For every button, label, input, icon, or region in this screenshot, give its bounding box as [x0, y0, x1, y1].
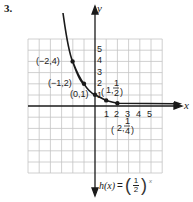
x-axis-label: x — [183, 99, 189, 111]
svg-text:1: 1 — [114, 78, 119, 88]
svg-text:5: 5 — [147, 109, 152, 119]
svg-text:2: 2 — [114, 109, 119, 119]
svg-text:1: 1 — [104, 109, 109, 119]
point-label: (0,1) — [70, 89, 89, 99]
equals-sign: = — [117, 180, 123, 191]
svg-text:4: 4 — [97, 55, 102, 65]
svg-text:1: 1 — [125, 116, 130, 126]
svg-text:): ) — [131, 125, 134, 135]
svg-text:): ) — [120, 87, 123, 97]
point-label: (−1,2) — [48, 78, 72, 88]
svg-text:2: 2 — [114, 88, 119, 98]
function-name: h(x) — [99, 180, 115, 191]
fraction-numerator: 1 — [134, 177, 138, 185]
y-axis — [92, 6, 98, 196]
function-formula: h(x) = ( 1 2 ) x — [99, 176, 152, 194]
close-paren: ) — [141, 176, 147, 194]
graph: y x 1 2 3 4 5 1 2 3 4 5 (−2,4) (−1,2) (0… — [0, 0, 193, 202]
svg-text:4: 4 — [136, 109, 141, 119]
base-fraction: 1 2 — [133, 177, 139, 194]
svg-text:4: 4 — [125, 126, 130, 136]
point-label-fraction: ( 2, 1 4 ) — [111, 116, 134, 136]
svg-text:(: ( — [101, 87, 104, 97]
svg-text:5: 5 — [97, 44, 102, 54]
exponent: x — [149, 178, 152, 184]
svg-text:(: ( — [111, 125, 114, 135]
point-label: (−2,4) — [36, 56, 60, 66]
fraction-denominator: 2 — [134, 186, 138, 194]
open-paren: ( — [125, 176, 131, 194]
svg-text:2,: 2, — [117, 123, 125, 133]
svg-text:3: 3 — [97, 67, 102, 77]
y-axis-label: y — [96, 2, 102, 14]
svg-text:1,: 1, — [106, 85, 114, 95]
